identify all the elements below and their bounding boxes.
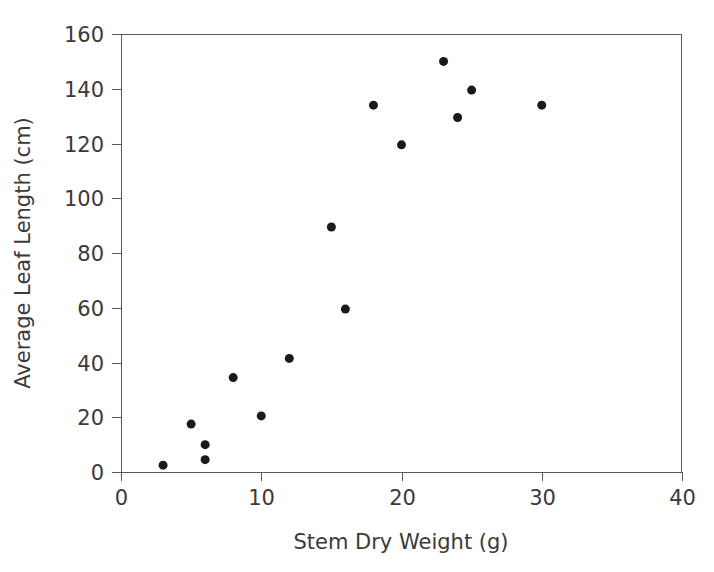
axis-frame — [121, 34, 682, 473]
data-point — [201, 440, 210, 449]
data-point — [467, 86, 476, 95]
y-tick-label: 140 — [64, 78, 104, 102]
data-point — [397, 140, 406, 149]
x-axis-ticks: 010203040 — [115, 472, 696, 510]
x-tick-label: 30 — [529, 486, 556, 510]
plot-canvas: 010203040 020406080100120140160 Stem Dry… — [0, 0, 714, 572]
x-tick-label: 40 — [669, 486, 696, 510]
y-tick-label: 160 — [64, 23, 104, 47]
x-tick-label: 0 — [115, 486, 128, 510]
y-tick-label: 80 — [77, 242, 104, 266]
data-point — [453, 113, 462, 122]
x-tick-label: 10 — [248, 486, 275, 510]
data-point — [369, 101, 378, 110]
data-point — [439, 57, 448, 66]
data-point — [341, 305, 350, 314]
data-point — [327, 222, 336, 231]
data-point — [537, 101, 546, 110]
y-tick-label: 120 — [64, 133, 104, 157]
y-tick-label: 0 — [91, 461, 104, 485]
y-axis-ticks: 020406080100120140160 — [64, 23, 121, 485]
scatter-plot-figure: 010203040 020406080100120140160 Stem Dry… — [0, 0, 714, 572]
x-axis-title: Stem Dry Weight (g) — [293, 530, 508, 554]
data-point — [187, 420, 196, 429]
y-tick-label: 40 — [77, 352, 104, 376]
data-point — [229, 373, 238, 382]
data-point — [201, 455, 210, 464]
data-points-layer — [159, 57, 547, 470]
data-point — [285, 354, 294, 363]
y-tick-label: 60 — [77, 297, 104, 321]
x-tick-label: 20 — [389, 486, 416, 510]
data-point — [159, 461, 168, 470]
y-axis-title: Average Leaf Length (cm) — [11, 117, 35, 389]
y-tick-label: 100 — [64, 187, 104, 211]
data-point — [257, 411, 266, 420]
y-tick-label: 20 — [77, 406, 104, 430]
